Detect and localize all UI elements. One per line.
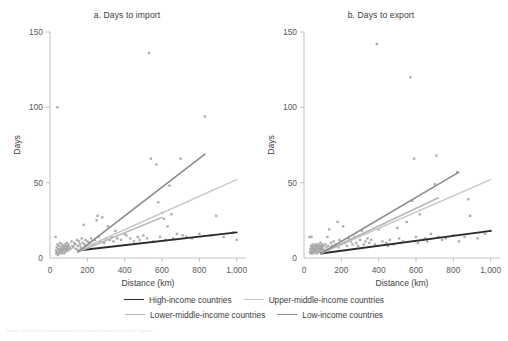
- scatter-point: [363, 243, 365, 245]
- x-tick-label: 200: [334, 265, 348, 275]
- x-tick-label: 200: [80, 265, 94, 275]
- source-note: Source: World Bank calculations based on…: [6, 328, 406, 333]
- legend-line-swatch: [277, 314, 297, 315]
- y-tick-label: 50: [34, 178, 44, 188]
- scatter-point: [90, 237, 92, 239]
- scatter-point: [333, 240, 335, 242]
- scatter-points: [54, 52, 237, 256]
- scatter-point: [79, 243, 81, 245]
- scatter-point: [338, 239, 340, 241]
- scatter-point: [138, 239, 140, 241]
- legend: High-income countriesUpper-middle-income…: [0, 292, 508, 326]
- scatter-point: [146, 237, 148, 239]
- x-tick-label: 800: [192, 265, 206, 275]
- scatter-point: [435, 154, 437, 156]
- scatter-point: [116, 237, 118, 239]
- scatter-point: [336, 221, 338, 223]
- scatter-point: [58, 245, 60, 247]
- scatter-point: [342, 225, 344, 227]
- y-tick-label: 50: [288, 178, 298, 188]
- scatter-point: [114, 230, 116, 232]
- scatter-point: [96, 215, 98, 217]
- scatter-point: [396, 227, 398, 229]
- scatter-point: [368, 242, 370, 244]
- scatter-point: [426, 240, 428, 242]
- scatter-point: [137, 236, 139, 238]
- scatter-point: [54, 236, 56, 238]
- scatter-point: [405, 221, 407, 223]
- scatter-point: [463, 236, 465, 238]
- y-tick-label: 0: [292, 253, 297, 263]
- y-tick-label: 100: [29, 102, 43, 112]
- legend-row: High-income countriesUpper-middle-income…: [0, 292, 508, 307]
- scatter-point: [72, 246, 74, 248]
- scatter-point: [179, 157, 181, 159]
- scatter-point: [142, 234, 144, 236]
- scatter-point: [70, 240, 72, 242]
- scatter-point: [155, 163, 157, 165]
- scatter-point: [166, 225, 168, 227]
- panel-a: a. Days to import 0501001500200400600800…: [0, 0, 254, 290]
- scatter-point: [69, 248, 71, 250]
- scatter-point: [150, 157, 152, 159]
- scatter-point: [163, 218, 165, 220]
- scatter-point: [351, 243, 353, 245]
- scatter-point: [370, 239, 372, 241]
- scatter-point: [95, 219, 97, 221]
- y-tick-label: 150: [29, 27, 43, 37]
- scatter-point: [129, 237, 131, 239]
- scatter-points: [308, 43, 491, 255]
- panels-row: a. Days to import 0501001500200400600800…: [0, 0, 508, 290]
- scatter-point: [389, 239, 391, 241]
- y-axis-title: Days: [12, 135, 22, 155]
- legend-label: Lower-middle-income countries: [150, 310, 265, 320]
- scatter-point: [346, 245, 348, 247]
- scatter-point: [330, 242, 332, 244]
- panel-a-plot: 05010015002004006008001,000Distance (km)…: [0, 0, 254, 290]
- x-tick-label: 1,000: [480, 265, 501, 275]
- scatter-point: [415, 236, 417, 238]
- figure-container: a. Days to import 0501001500200400600800…: [0, 0, 508, 341]
- legend-label: Low-income countries: [302, 310, 383, 320]
- scatter-point: [78, 240, 80, 242]
- legend-item: High-income countries: [124, 295, 232, 305]
- y-tick-label: 150: [283, 27, 297, 37]
- scatter-point: [74, 243, 76, 245]
- scatter-point: [409, 76, 411, 78]
- x-tick-label: 400: [118, 265, 132, 275]
- scatter-point: [357, 245, 359, 247]
- scatter-point: [67, 249, 69, 251]
- scatter-point: [326, 236, 328, 238]
- scatter-point: [215, 215, 217, 217]
- scatter-point: [159, 236, 161, 238]
- x-tick-label: 800: [446, 265, 460, 275]
- scatter-point: [413, 157, 415, 159]
- x-tick-label: 600: [409, 265, 423, 275]
- scatter-point: [75, 248, 77, 250]
- y-tick-label: 100: [283, 102, 297, 112]
- legend-line-swatch: [124, 299, 144, 300]
- scatter-point: [56, 106, 58, 108]
- x-axis-title: Distance (km): [375, 278, 428, 288]
- trend-line: [78, 217, 162, 252]
- legend-row: Lower-middle-income countriesLow-income …: [0, 307, 508, 322]
- scatter-point: [476, 237, 478, 239]
- scatter-point: [168, 184, 170, 186]
- scatter-point: [81, 237, 83, 239]
- scatter-point: [417, 242, 419, 244]
- scatter-point: [381, 240, 383, 242]
- x-tick-label: 600: [155, 265, 169, 275]
- scatter-point: [107, 225, 109, 227]
- scatter-point: [458, 240, 460, 242]
- trend-line: [321, 172, 459, 253]
- scatter-point: [67, 243, 69, 245]
- scatter-point: [112, 240, 114, 242]
- legend-label: High-income countries: [149, 295, 232, 305]
- scatter-point: [125, 234, 127, 236]
- scatter-point: [133, 240, 135, 242]
- scatter-point: [355, 242, 357, 244]
- legend-label: Upper-middle-income countries: [269, 295, 384, 305]
- scatter-point: [441, 239, 443, 241]
- scatter-point: [170, 213, 172, 215]
- scatter-point: [327, 245, 329, 247]
